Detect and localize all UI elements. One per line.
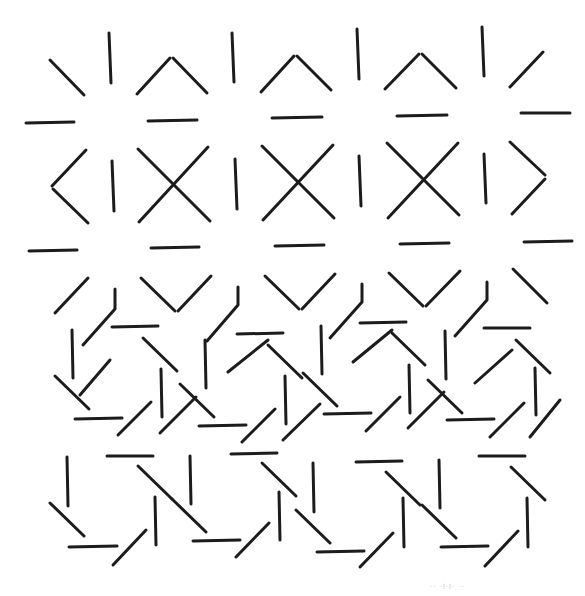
line-segment <box>52 150 86 186</box>
line-segment <box>510 142 545 175</box>
line-segment <box>53 189 88 223</box>
line-segment <box>151 247 199 248</box>
line-segment <box>385 54 419 89</box>
line-segment <box>516 340 550 373</box>
line-segment <box>113 530 146 565</box>
line-segment <box>55 278 88 313</box>
line-segment <box>297 56 331 90</box>
line-segment <box>172 499 206 532</box>
bent-segment <box>330 284 362 338</box>
line-segment <box>303 373 337 406</box>
line-segment <box>360 322 406 323</box>
line-segment <box>112 161 114 211</box>
line-segment <box>72 330 73 378</box>
bent-segment <box>455 282 487 336</box>
line-segment <box>261 56 294 92</box>
line-segment <box>535 368 536 415</box>
line-segment <box>317 551 364 552</box>
line-segment <box>138 466 172 499</box>
line-segment <box>409 365 410 413</box>
line-segment <box>29 250 77 251</box>
line-segment <box>408 392 444 428</box>
line-segment <box>527 498 528 547</box>
line-segment <box>321 326 322 374</box>
line-segment <box>302 274 335 309</box>
line-segment <box>237 333 283 334</box>
line-segment <box>447 419 494 420</box>
line-segment <box>205 340 206 388</box>
line-segment <box>485 531 518 566</box>
line-segment <box>283 404 320 440</box>
line-segment <box>511 467 545 500</box>
bent-segment <box>207 287 238 341</box>
line-segment <box>272 117 322 118</box>
line-segment <box>231 453 277 454</box>
line-segment <box>178 276 211 311</box>
line-segment <box>513 269 547 303</box>
line-segment <box>141 278 175 311</box>
line-segment <box>285 376 286 424</box>
line-segment <box>357 29 359 79</box>
line-segment <box>112 326 158 327</box>
line-segment <box>235 159 237 209</box>
line-segment <box>353 330 392 362</box>
line-segment <box>75 418 122 419</box>
line-segment <box>190 456 191 504</box>
line-segment <box>439 460 440 508</box>
top-star-grid <box>26 27 572 345</box>
line-segment <box>445 331 446 379</box>
line-segment <box>428 380 462 413</box>
line-segment <box>80 360 110 395</box>
line-segment <box>148 120 197 121</box>
line-segment <box>324 413 371 414</box>
line-segment <box>524 241 572 242</box>
line-segment <box>397 115 447 116</box>
line-segment <box>510 52 543 87</box>
line-segment <box>199 425 246 426</box>
line-segment <box>392 333 425 365</box>
line-segment <box>441 546 488 547</box>
line-segment <box>482 27 484 76</box>
line-segment <box>422 505 456 538</box>
line-segment <box>512 179 545 214</box>
line-segment <box>67 457 68 506</box>
bent-segment <box>83 289 115 345</box>
line-segment <box>173 58 207 93</box>
line-segment <box>359 156 361 206</box>
line-segment <box>26 122 74 123</box>
line-segment <box>50 60 84 95</box>
line-segment <box>155 497 156 545</box>
scan-caption: ·· ·l·l· ·· <box>430 583 465 591</box>
line-segment <box>484 154 486 203</box>
line-segment <box>389 273 423 306</box>
line-segment <box>426 271 460 306</box>
line-segment <box>180 384 214 417</box>
line-segment <box>279 492 280 540</box>
line-segment <box>160 397 196 433</box>
line-segment <box>69 546 117 547</box>
line-segment <box>422 54 456 88</box>
line-texture-figure <box>0 0 585 596</box>
line-segment <box>475 350 512 383</box>
line-segment <box>50 503 84 536</box>
line-segment <box>356 461 402 462</box>
line-segment <box>193 540 240 541</box>
line-segment <box>296 510 330 543</box>
line-segment <box>313 463 314 512</box>
line-segment <box>400 243 449 244</box>
line-segment <box>137 58 170 94</box>
line-segment <box>232 33 234 82</box>
line-segment <box>275 245 324 246</box>
line-segment <box>109 33 111 83</box>
line-segment <box>268 345 302 378</box>
line-segment <box>265 276 299 309</box>
line-segment <box>403 498 404 547</box>
bottom-pinwheel-grid <box>50 322 560 567</box>
line-segment <box>143 338 177 371</box>
line-segment <box>228 340 268 372</box>
line-segment <box>161 369 162 417</box>
